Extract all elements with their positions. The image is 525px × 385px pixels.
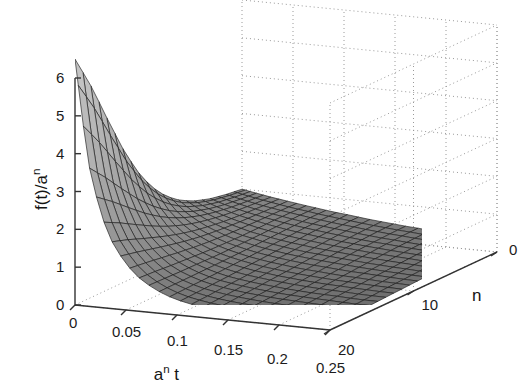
x-tick-label-0: 0 [69,315,77,330]
x-tick-label-1: 0.05 [112,324,141,339]
z-tick-label-6: 6 [56,70,64,85]
x-tick-label-2: 0.1 [167,333,188,348]
x-axis-title: an t [154,366,179,383]
n-axis-title: n [472,287,481,304]
z-tick-label-1: 1 [56,259,64,274]
x-tick-label-3: 0.15 [214,342,243,357]
z-tick-label-3: 3 [56,184,64,199]
z-tick-label-5: 5 [56,108,64,123]
n-tick-label-10: 10 [422,297,439,312]
x-tick-label-5: 0.25 [316,360,345,375]
z-axis-title: f(t)/an [33,169,50,210]
x-tick-label-4: 0.2 [267,351,288,366]
n-tick-label-20: 20 [338,342,355,357]
plot-canvas [0,0,525,385]
z-tick-label-0: 0 [56,297,64,312]
mesh-surface [75,59,497,326]
n-tick-label-0: 0 [509,242,517,257]
z-tick-label-4: 4 [56,146,64,161]
z-tick-label-2: 2 [56,221,64,236]
surface-plot-figure: 0 1 2 3 4 5 6 0 0.05 0.1 0.15 0.2 0.25 0… [0,0,525,385]
